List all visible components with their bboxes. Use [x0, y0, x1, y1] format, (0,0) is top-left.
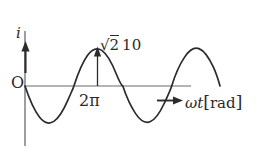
x-axis-direction-arrow-icon — [157, 96, 183, 104]
amplitude-label: √2 10 — [100, 38, 141, 53]
x-axis-symbol: ωt — [185, 94, 203, 112]
y-axis-direction-arrow-icon — [21, 41, 29, 73]
amplitude-radicand: 2 — [110, 35, 120, 54]
waveform-plot-area — [0, 0, 268, 162]
y-axis-label: i — [16, 26, 21, 41]
x-axis-unit-open-bracket: [ — [203, 92, 210, 112]
x-axis-label: ωt[rad] — [185, 94, 242, 111]
origin-label: O — [11, 75, 24, 91]
sine-waveform-figure: i O √2 10 2π ωt[rad] — [0, 0, 268, 162]
radical-sign-icon: √ — [100, 36, 110, 54]
x-axis-unit: rad — [210, 94, 236, 112]
amplitude-coefficient: 10 — [122, 36, 141, 54]
period-marker-label: 2π — [79, 93, 100, 109]
x-axis-unit-close-bracket: ] — [236, 92, 243, 112]
